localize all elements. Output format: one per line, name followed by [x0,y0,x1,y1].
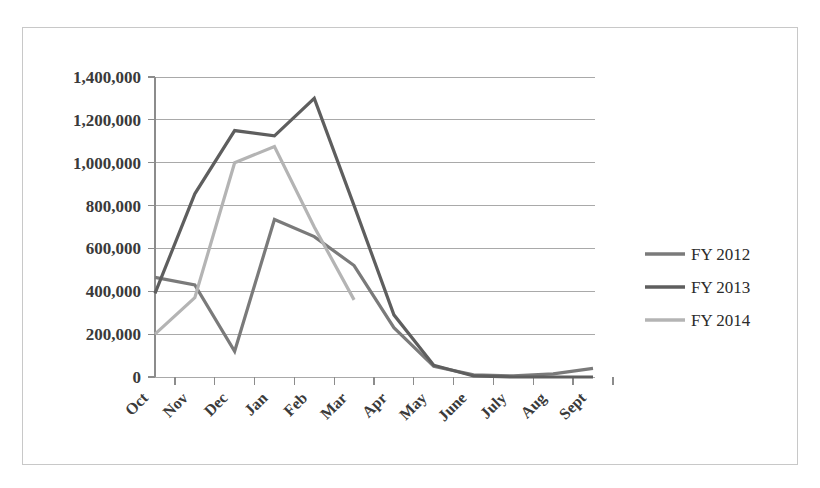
y-axis-tick-label: 0 [133,368,142,387]
x-axis-tick-label: Aug [517,389,550,422]
series-line-fy-2012 [155,220,593,376]
legend-label: FY 2014 [691,311,751,330]
line-chart: 0200,000400,000600,000800,0001,000,0001,… [0,0,820,488]
x-axis-tick-label: Nov [159,389,191,421]
legend-label: FY 2012 [691,245,750,264]
data-series [155,98,593,377]
y-axis-labels: 0200,000400,000600,000800,0001,000,0001,… [73,68,141,387]
legend-label: FY 2013 [691,278,750,297]
x-axis-tick-label: Sept [556,389,591,424]
y-axis-tick-label: 1,200,000 [73,111,141,130]
y-axis-tick-label: 800,000 [86,197,141,216]
y-axis-tick-label: 400,000 [86,282,141,301]
x-axis-labels: OctNovDecJanFebMarAprMayJuneJulyAugSept [122,389,591,425]
y-axis-tick-label: 1,400,000 [73,68,141,87]
x-axis-tick-label: May [396,389,431,424]
y-axis-tick-label: 1,000,000 [73,154,141,173]
x-axis-tick-label: June [434,389,469,424]
y-axis-tick-label: 600,000 [86,239,141,258]
y-axis-tick-label: 200,000 [86,325,141,344]
x-axis-tick-label: Mar [317,389,350,422]
series-line-fy-2014 [155,147,354,335]
x-axis-tick-label: Jan [241,389,271,419]
x-axis-tick-label: Oct [122,389,152,419]
x-axis-tick-label: Dec [201,389,231,419]
chart-legend: FY 2012FY 2013FY 2014 [645,245,751,330]
series-line-fy-2013 [155,98,593,377]
x-axis-tick-label: Feb [280,389,310,419]
x-axis-tick-label: July [477,389,510,422]
x-axis-tick-label: Apr [359,389,391,421]
